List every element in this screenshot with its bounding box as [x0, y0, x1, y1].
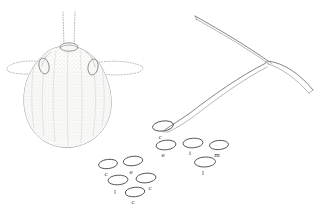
ellipse-label-e1: c: [158, 134, 161, 141]
ellipse-label-e3: i: [189, 150, 191, 157]
specimen-ellipse-i-e3: [183, 138, 204, 149]
specimen-ellipse-e-e7: [123, 155, 144, 167]
ellipse-label-e9: c: [148, 185, 151, 192]
ellipse-label-e4: m: [214, 152, 219, 159]
ellipse-label-e2: e: [161, 152, 164, 159]
branching-filament: [163, 16, 313, 132]
collar-ellipse: [60, 43, 78, 51]
dotted-vertical-guides: [63, 12, 75, 46]
figure-illustration: [0, 0, 324, 210]
specimen-ellipse-l-e8: [108, 175, 129, 186]
specimen-ellipse-c-e10: [125, 186, 145, 197]
ellipse-label-e8: l: [114, 189, 116, 196]
ellipse-label-e6: c: [104, 171, 107, 178]
body-stipple-texture: [20, 44, 116, 152]
ellipse-label-e5: l: [202, 170, 204, 177]
figure-canvas: ceimlcelcc: [0, 0, 324, 210]
specimen-ellipse-m-e4: [209, 140, 229, 151]
stippled-ovoid-body: [20, 43, 116, 152]
specimen-ellipse-c-e6: [98, 158, 118, 169]
specimen-ellipse-l-e5: [194, 156, 215, 167]
ellipse-label-e7: e: [129, 169, 132, 176]
specimen-ellipse-c-e9: [136, 172, 157, 184]
ellipse-label-e10: c: [131, 199, 134, 206]
